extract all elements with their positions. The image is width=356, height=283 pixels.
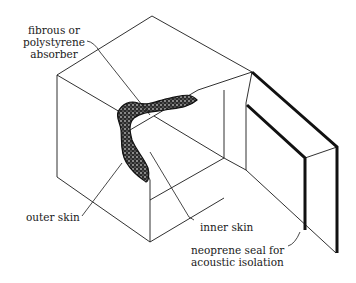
absorber-label-line-1: fibrous or (12, 24, 96, 36)
leader-lines (82, 41, 300, 246)
inner-skin-label: inner skin (200, 221, 253, 233)
absorber-label-line-2: polystyrene (12, 36, 96, 48)
absorber-label-line-3: absorber (12, 48, 96, 60)
door-seal-edges (247, 72, 337, 253)
seal-label-line-2: acoustic isolation (191, 256, 284, 268)
absorber-label: fibrous or polystyrene absorber (12, 24, 96, 60)
inner-skin-leader (150, 152, 194, 220)
cube-outline (57, 16, 337, 253)
absorber-layer (117, 95, 197, 182)
seal-leader (288, 232, 300, 246)
outer-skin-label: outer skin (26, 211, 80, 223)
diagram-canvas: fibrous or polystyrene absorber outer sk… (0, 0, 356, 283)
seal-label-line-1: neoprene seal for (191, 244, 284, 256)
seal-label: neoprene seal for acoustic isolation (191, 244, 284, 268)
